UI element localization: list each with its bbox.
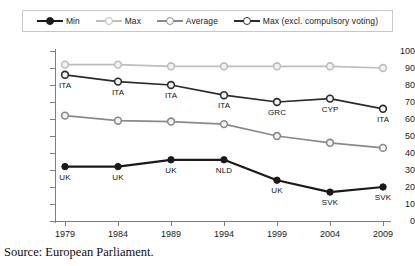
data-point[interactable] bbox=[62, 112, 69, 119]
data-point[interactable] bbox=[380, 105, 387, 112]
data-point[interactable] bbox=[221, 157, 227, 163]
data-point-label: SVK bbox=[363, 193, 403, 202]
data-point[interactable] bbox=[62, 61, 69, 68]
data-point[interactable] bbox=[115, 61, 122, 68]
data-point-label: GRC bbox=[257, 108, 297, 117]
data-point[interactable] bbox=[168, 63, 175, 70]
data-point[interactable] bbox=[221, 92, 228, 99]
series-layer bbox=[0, 0, 415, 266]
data-point-label: ITA bbox=[98, 88, 138, 97]
data-point[interactable] bbox=[274, 177, 280, 183]
data-point[interactable] bbox=[380, 65, 387, 72]
data-point[interactable] bbox=[62, 71, 69, 78]
data-point-label: ITA bbox=[204, 101, 244, 110]
chart-figure: MinMaxAverageMax (excl. compulsory votin… bbox=[0, 0, 415, 266]
data-point-label: SVK bbox=[310, 198, 350, 207]
data-point[interactable] bbox=[168, 82, 175, 89]
data-point[interactable] bbox=[274, 133, 281, 140]
data-point[interactable] bbox=[221, 63, 228, 70]
data-point-label: UK bbox=[45, 173, 85, 182]
data-point[interactable] bbox=[274, 99, 281, 106]
data-point[interactable] bbox=[62, 163, 68, 169]
data-point[interactable] bbox=[115, 117, 122, 124]
data-point[interactable] bbox=[168, 157, 174, 163]
data-point-label: ITA bbox=[45, 81, 85, 90]
data-point-label: CYP bbox=[310, 105, 350, 114]
data-point[interactable] bbox=[221, 121, 228, 128]
data-point-label: UK bbox=[98, 173, 138, 182]
data-point[interactable] bbox=[327, 95, 334, 102]
data-point-label: UK bbox=[257, 186, 297, 195]
data-point-label: ITA bbox=[151, 91, 191, 100]
data-point-label: UK bbox=[151, 166, 191, 175]
data-point[interactable] bbox=[327, 139, 334, 146]
data-point[interactable] bbox=[115, 78, 122, 85]
data-point[interactable] bbox=[274, 63, 281, 70]
data-point[interactable] bbox=[115, 163, 121, 169]
data-point[interactable] bbox=[380, 145, 387, 152]
data-point[interactable] bbox=[380, 184, 386, 190]
data-point[interactable] bbox=[327, 63, 334, 70]
source-caption: Source: European Parliament. bbox=[4, 245, 154, 260]
data-point[interactable] bbox=[327, 189, 333, 195]
data-point[interactable] bbox=[168, 118, 175, 125]
data-point-label: NLD bbox=[204, 166, 244, 175]
data-point-label: ITA bbox=[363, 115, 403, 124]
